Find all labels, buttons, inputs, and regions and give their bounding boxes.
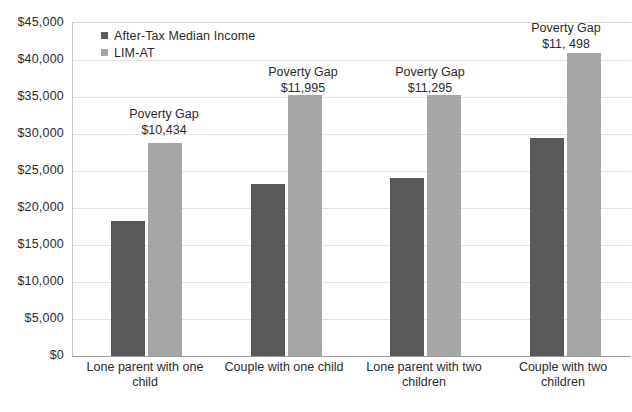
legend-swatch-icon xyxy=(101,49,108,56)
annotation-poverty-gap: Poverty Gap $10,434 xyxy=(129,106,198,138)
y-tick-label: $0 xyxy=(50,348,64,362)
x-axis-label: Lone parent with one child xyxy=(80,360,210,390)
annotation-title: Poverty Gap xyxy=(395,64,464,80)
y-tick-label: $30,000 xyxy=(17,126,64,140)
bar-chart: $45,000 $40,000 $35,000 $30,000 $25,000 … xyxy=(0,0,632,412)
annotation-poverty-gap: Poverty Gap $11, 498 xyxy=(531,20,600,52)
bar-lim-at xyxy=(148,143,182,356)
y-tick-label: $25,000 xyxy=(17,163,64,177)
annotation-poverty-gap: Poverty Gap $11,995 xyxy=(268,64,337,96)
y-tick-label: $15,000 xyxy=(17,237,64,251)
bar-after-tax-median-income xyxy=(251,184,285,356)
annotation-value: $10,434 xyxy=(129,122,198,138)
legend-item-lim-at: LIM-AT xyxy=(101,44,255,61)
bar-lim-at xyxy=(567,53,601,356)
bar-lim-at xyxy=(288,95,322,356)
legend-item-after-tax-median-income: After-Tax Median Income xyxy=(101,27,255,44)
bar-after-tax-median-income xyxy=(390,178,424,356)
bar-after-tax-median-income xyxy=(111,221,145,356)
annotation-title: Poverty Gap xyxy=(531,20,600,36)
y-tick-label: $35,000 xyxy=(17,89,64,103)
y-tick-label: $40,000 xyxy=(17,52,64,66)
legend-swatch-icon xyxy=(101,32,108,39)
bar-group xyxy=(73,23,213,356)
legend-label: LIM-AT xyxy=(114,46,155,60)
y-tick-label: $20,000 xyxy=(17,200,64,214)
annotation-title: Poverty Gap xyxy=(129,106,198,122)
legend-label: After-Tax Median Income xyxy=(114,29,255,43)
plot-area: After-Tax Median Income LIM-AT xyxy=(72,22,631,357)
y-tick-label: $5,000 xyxy=(25,311,64,325)
x-axis-label: Couple with one child xyxy=(224,360,344,375)
annotation-value: $11,295 xyxy=(395,80,464,96)
legend: After-Tax Median Income LIM-AT xyxy=(101,27,255,61)
y-tick-label: $10,000 xyxy=(17,274,64,288)
y-tick-label: $45,000 xyxy=(17,15,64,29)
x-axis-label: Couple with two children xyxy=(503,360,623,390)
annotation-title: Poverty Gap xyxy=(268,64,337,80)
y-axis: $45,000 $40,000 $35,000 $30,000 $25,000 … xyxy=(0,0,72,412)
bar-lim-at xyxy=(427,95,461,356)
bar-after-tax-median-income xyxy=(530,138,564,356)
x-axis-label: Lone parent with two children xyxy=(359,360,489,390)
annotation-value: $11,995 xyxy=(268,80,337,96)
annotation-value: $11, 498 xyxy=(531,36,600,52)
annotation-poverty-gap: Poverty Gap $11,295 xyxy=(395,64,464,96)
bar-group xyxy=(492,23,632,356)
